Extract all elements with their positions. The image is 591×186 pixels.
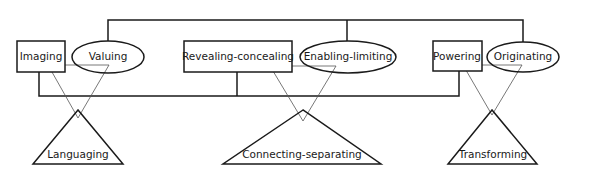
imaging-label: Imaging [20,50,63,62]
powering-label: Powering [433,50,481,62]
transforming-label: Transforming [458,148,527,160]
rhythmicity-diagram: Imaging Valuing Revealing-concealing Ena… [0,0,591,186]
transforming-link-triangle [463,65,522,115]
imaging-box: Imaging [17,41,65,72]
languaging-label: Languaging [47,148,109,160]
valuing-ellipse: Valuing [72,41,144,73]
revealing-concealing-label: Revealing-concealing [182,50,294,62]
bottom-connector [39,71,459,96]
transforming-triangle: Transforming [448,110,537,164]
originating-ellipse: Originating [487,42,559,72]
originating-label: Originating [494,50,553,62]
valuing-label: Valuing [89,50,128,62]
connecting-separating-label: Connecting-separating [242,148,362,160]
enabling-limiting-ellipse: Enabling-limiting [300,41,396,73]
revealing-concealing-box: Revealing-concealing [182,41,294,72]
enabling-limiting-label: Enabling-limiting [304,50,393,62]
connecting-link-triangle [270,66,336,121]
powering-box: Powering [433,41,482,71]
connecting-separating-triangle: Connecting-separating [223,110,381,164]
top-connector [108,20,523,42]
